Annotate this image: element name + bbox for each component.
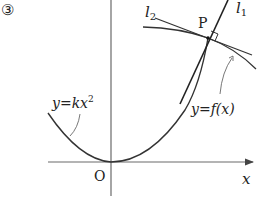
point-label: P (198, 15, 207, 31)
pointer-k (70, 114, 80, 136)
point-p (206, 36, 210, 40)
origin-label: O (94, 168, 105, 184)
pointer-f (220, 58, 232, 94)
curve-k-label: y=kx2 (51, 94, 94, 111)
curve-f-label: y=f(x) (190, 101, 235, 117)
diagram-canvas: ③ l2 P l1 y=f(x) y=kx2 O x (0, 0, 263, 207)
figure-number: ③ (1, 1, 14, 19)
pointer-f-arrowhead (229, 56, 233, 61)
line1-label: l1 (236, 0, 247, 18)
x-axis-label: x (242, 170, 251, 188)
line2-label: l2 (145, 3, 156, 22)
